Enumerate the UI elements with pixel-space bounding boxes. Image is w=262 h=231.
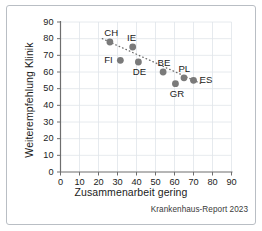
data-point-label: GR — [170, 88, 184, 99]
y-axis-title: Weiterempfehlung Klinik — [23, 42, 35, 157]
data-point-label: CH — [104, 27, 118, 38]
data-point — [129, 44, 136, 51]
data-point — [135, 59, 142, 66]
data-point-label: ES — [200, 74, 213, 85]
data-point — [160, 69, 167, 76]
data-point — [181, 74, 188, 81]
x-axis-title: Zusammenarbeit gering — [0, 186, 262, 198]
y-axis-title-wrapper: Weiterempfehlung Klinik — [19, 20, 37, 180]
data-point — [107, 39, 114, 46]
gridlines — [61, 22, 232, 172]
source-note: Krankenhaus-Report 2023 — [151, 205, 248, 214]
data-point — [172, 80, 179, 87]
data-point-label: DE — [133, 66, 146, 77]
data-point — [117, 57, 124, 64]
axis-lines — [61, 21, 233, 172]
data-point-label: FI — [104, 54, 113, 65]
data-point-label: IE — [127, 32, 136, 43]
chart-figure: 01020304050607080900102030405060708090 C… — [0, 0, 262, 231]
data-point-label: BE — [158, 57, 171, 68]
data-point — [190, 77, 197, 84]
data-point-label: PL — [178, 63, 190, 74]
tick-marks — [57, 22, 232, 176]
